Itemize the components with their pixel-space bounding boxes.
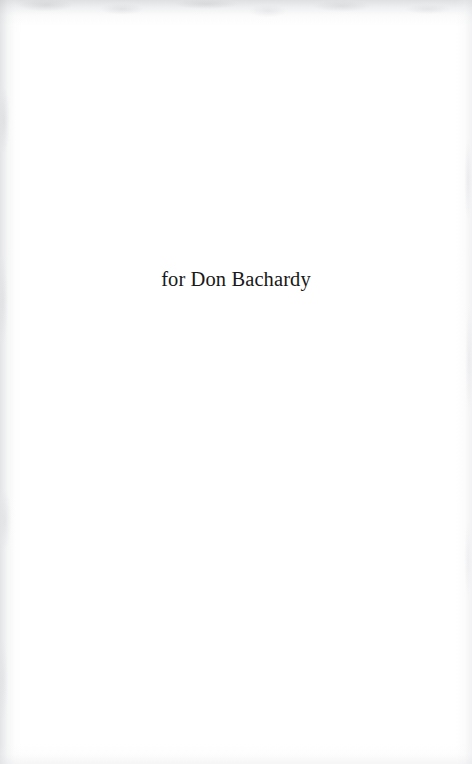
scan-noise-left xyxy=(0,0,30,764)
scan-edge-right xyxy=(456,0,472,764)
scan-edge-top xyxy=(0,0,472,26)
dedication-text: for Don Bachardy xyxy=(0,266,472,292)
scan-noise-right xyxy=(450,0,472,764)
scan-noise-top xyxy=(0,0,472,34)
scan-edge-bottom xyxy=(0,744,472,764)
dedication-page: for Don Bachardy xyxy=(0,0,472,764)
scan-edge-left xyxy=(0,0,22,764)
scan-noise-bottom xyxy=(0,738,472,764)
